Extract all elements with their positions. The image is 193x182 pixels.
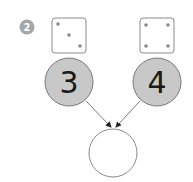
die-three-icon	[52, 18, 86, 53]
part-circle-right: 4	[133, 58, 181, 106]
number-bond-diagram: 2 3 4	[0, 0, 193, 182]
problem-number-badge: 2	[20, 20, 35, 35]
whole-circle-answer[interactable]	[89, 129, 137, 177]
problem-number: 2	[24, 22, 31, 33]
die-four-icon	[140, 18, 174, 53]
arrow-right-to-whole	[116, 101, 140, 127]
part-circle-left: 3	[45, 58, 93, 106]
part-value-left: 3	[59, 65, 78, 100]
arrow-left-to-whole	[86, 101, 111, 127]
part-value-right: 4	[147, 65, 166, 100]
